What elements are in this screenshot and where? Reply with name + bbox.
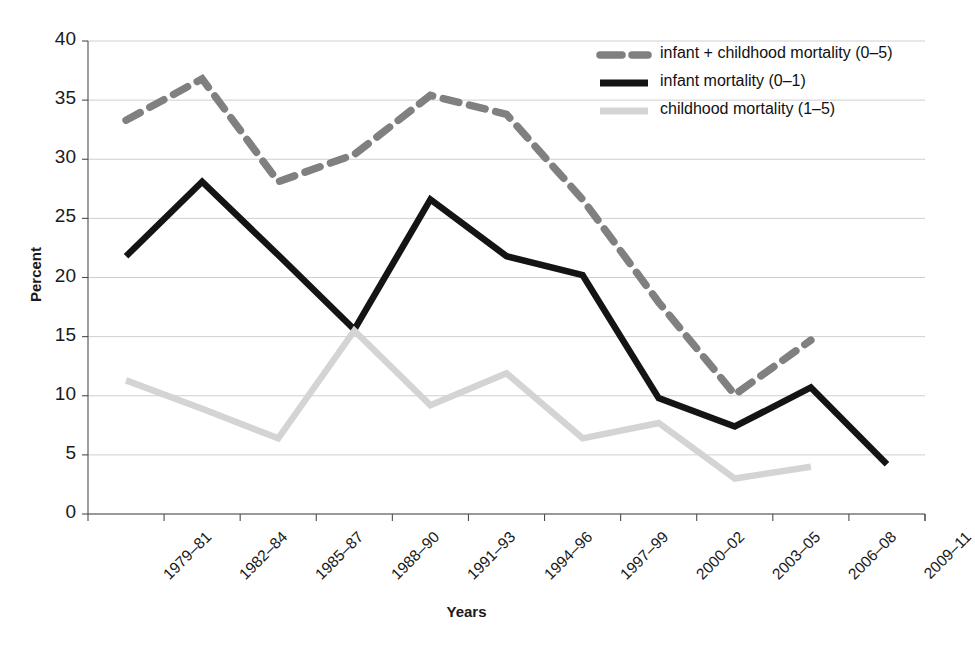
y-axis-tick-label: 10 <box>55 383 76 405</box>
y-axis-tick-label: 5 <box>65 442 76 464</box>
x-axis-title: Years <box>0 603 933 620</box>
y-axis-tick-label: 20 <box>55 265 76 287</box>
legend-label-2: infant mortality (0–1) <box>660 72 806 90</box>
y-axis-ticks <box>82 41 88 514</box>
y-axis-tick-label: 25 <box>55 205 76 227</box>
legend-label-3: childhood mortality (1–5) <box>660 100 835 118</box>
y-axis-title: Percent <box>27 229 44 319</box>
y-axis-tick-label: 0 <box>65 501 76 523</box>
series-line-1 <box>126 79 811 395</box>
legend-label-1: infant + childhood mortality (0–5) <box>660 44 893 62</box>
y-axis-tick-label: 40 <box>55 28 76 50</box>
y-axis-tick-label: 30 <box>55 146 76 168</box>
y-axis-tick-label: 15 <box>55 324 76 346</box>
y-axis-tick-label: 35 <box>55 87 76 109</box>
series-line-3 <box>126 331 811 479</box>
x-axis-ticks <box>88 514 925 521</box>
